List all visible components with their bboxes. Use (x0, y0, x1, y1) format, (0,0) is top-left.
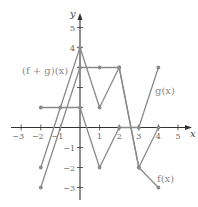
data-point (98, 166, 102, 170)
x-tick-label: 5 (175, 132, 180, 141)
f-label: f(x) (157, 173, 174, 184)
y-tick-label: −3 (63, 184, 75, 193)
data-point (137, 126, 141, 130)
data-point (117, 66, 121, 70)
x-tick-label: −2 (32, 132, 44, 141)
data-point (98, 66, 102, 70)
data-point (157, 126, 161, 130)
series-line-1 (41, 68, 159, 168)
x-tick-label: −3 (12, 132, 24, 141)
y-axis-arrow-icon (78, 13, 83, 20)
data-point (117, 126, 121, 130)
data-point (39, 166, 43, 170)
data-point (39, 106, 43, 110)
data-point (78, 46, 82, 50)
g-label: g(x) (155, 85, 175, 96)
y-tick-label: −1 (63, 144, 75, 153)
x-tick-label: 1 (97, 132, 102, 141)
y-tick-label: −2 (63, 164, 75, 173)
function-graph: −3−2−112345−3−2−145 x y (f + g)(x) g(x) … (0, 0, 198, 207)
y-tick-label: 5 (70, 24, 75, 33)
labels: x y (f + g)(x) g(x) f(x) (22, 8, 196, 184)
x-tick-label: 4 (156, 132, 161, 141)
data-point (157, 66, 161, 70)
data-point (98, 106, 102, 110)
x-tick-label: 3 (136, 132, 141, 141)
data-point (78, 106, 82, 110)
y-tick-label: 4 (70, 44, 75, 53)
data-point (59, 106, 63, 110)
axes: −3−2−112345−3−2−145 (11, 13, 192, 200)
data-point (78, 66, 82, 70)
data-point (39, 186, 43, 190)
data-point (137, 166, 141, 170)
x-tick-label: 2 (117, 132, 122, 141)
y-axis-label: y (69, 8, 76, 19)
fg-sum-label: (f + g)(x) (22, 65, 68, 76)
data-point (157, 186, 161, 190)
x-axis-label: x (190, 128, 196, 139)
